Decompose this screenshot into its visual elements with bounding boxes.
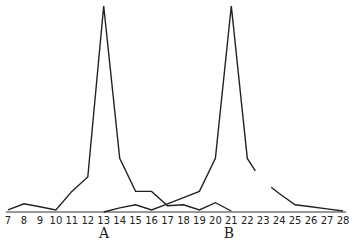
x-tick-label: 12 [81,215,94,226]
x-tick-label: 9 [37,215,43,226]
x-axis-tick-labels: 7891011121314151617181920212223242526272… [5,215,350,226]
peak-label-a: A [98,225,110,241]
x-tick-label: 23 [257,215,270,226]
x-tick-label: 16 [145,215,158,226]
x-tick-label: 18 [177,215,190,226]
x-tick-label: 26 [305,215,318,226]
x-tick-label: 27 [321,215,334,226]
chart: 7891011121314151617181920212223242526272… [0,0,354,243]
x-tick-label: 10 [50,215,63,226]
series-b-line [104,6,256,212]
x-tick-label: 22 [241,215,254,226]
x-tick-label: 24 [273,215,286,226]
x-tick-label: 15 [129,215,142,226]
peak-label-b: B [224,225,234,241]
x-tick-label: 8 [21,215,27,226]
x-tick-label: 28 [337,215,350,226]
plot-area [8,6,343,212]
x-tick-label: 25 [289,215,302,226]
x-tick-label: 20 [209,215,222,226]
x-tick-label: 19 [193,215,206,226]
series-b-tail-line [271,187,343,211]
x-tick-label: 11 [65,215,78,226]
x-tick-label: 17 [161,215,174,226]
x-tick-label: 7 [5,215,11,226]
x-tick-label: 14 [113,215,126,226]
series-a-line [8,6,231,211]
